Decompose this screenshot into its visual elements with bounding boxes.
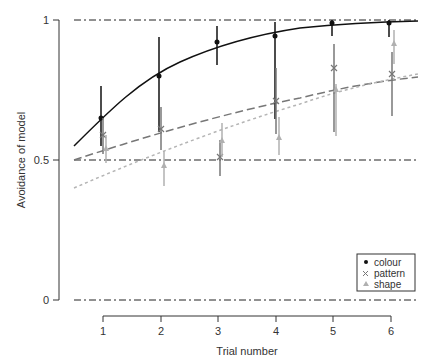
- x-tick-2: 2: [158, 325, 164, 337]
- fit-curves: [74, 21, 418, 188]
- x-tick-3: 3: [215, 325, 221, 337]
- shape-fit-curve: [74, 74, 418, 188]
- legend: colour pattern shape: [357, 254, 415, 291]
- legend-label-pattern: pattern: [374, 268, 405, 279]
- legend-label-colour: colour: [374, 257, 402, 268]
- series-shape: [103, 30, 397, 186]
- legend-circle-icon: [364, 260, 368, 264]
- y-tick-1: 1: [43, 14, 49, 26]
- x-tick-1: 1: [100, 325, 106, 337]
- x-axis-label: Trial number: [216, 345, 278, 357]
- x-axis: 1 2 3 4 5 6 Trial number: [100, 316, 394, 357]
- legend-label-shape: shape: [374, 279, 402, 290]
- x-tick-4: 4: [273, 325, 279, 337]
- y-tick-0: 0: [43, 294, 49, 306]
- x-tick-6: 6: [388, 325, 394, 337]
- pattern-fit-curve: [74, 77, 418, 160]
- y-axis: 1 0.5 0 Avoidance of model: [15, 14, 59, 306]
- y-axis-label: Avoidance of model: [15, 112, 27, 208]
- x-tick-5: 5: [330, 325, 336, 337]
- chart-canvas: 1 0.5 0 Avoidance of model 1 2 3 4 5 6 T…: [0, 0, 433, 361]
- y-tick-0.5: 0.5: [34, 154, 49, 166]
